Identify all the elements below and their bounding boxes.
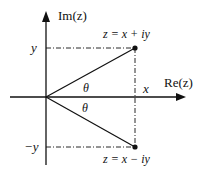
imag-axis-label: Im(z) — [58, 8, 87, 23]
real-axis-label: Re(z) — [164, 75, 193, 90]
tick-x: x — [142, 81, 149, 96]
tick-y-positive: y — [29, 40, 37, 55]
angle-lower: θ — [82, 101, 88, 115]
tick-y-negative: −y — [24, 139, 39, 154]
point-upper-icon — [132, 45, 137, 50]
angle-upper: θ — [83, 81, 89, 95]
vector-upper — [46, 48, 135, 97]
real-axis-arrow-icon — [176, 93, 186, 101]
point-upper-label: z = x + iy — [102, 27, 151, 41]
imag-axis-arrow-icon — [42, 11, 50, 22]
diagram-canvas: Im(z) Re(z) y −y x θ θ z = x + iy z = x … — [0, 0, 199, 169]
point-lower-icon — [132, 144, 137, 149]
point-lower-label: z = x − iy — [102, 152, 151, 166]
complex-plane-diagram: Im(z) Re(z) y −y x θ θ z = x + iy z = x … — [0, 0, 199, 169]
vector-lower — [46, 97, 135, 147]
